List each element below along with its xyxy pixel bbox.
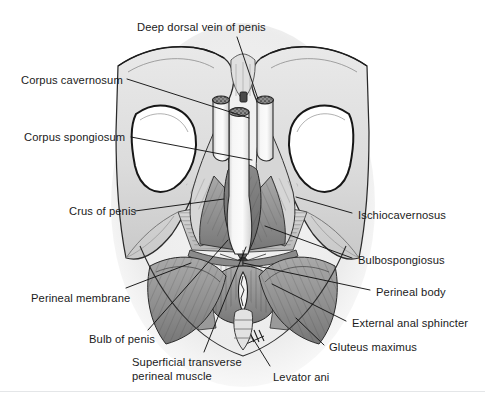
label-external-anal-sphincter-line-1: External anal sphincter (352, 317, 468, 331)
label-external-anal-sphincter: External anal sphincter (352, 317, 468, 331)
label-superficial-transverse-line-1: Superficial transverse (132, 356, 242, 370)
label-gluteus-maximus-line-1: Gluteus maximus (329, 341, 417, 355)
label-perineal-membrane-line-1: Perineal membrane (31, 292, 130, 306)
label-bulbospongiosus: Bulbospongiosus (358, 254, 445, 268)
label-levator-ani-line-1: Levator ani (273, 371, 329, 385)
anatomical-figure: Deep dorsal vein of penisCorpus cavernos… (0, 0, 485, 402)
label-bulbospongiosus-line-1: Bulbospongiosus (358, 254, 445, 268)
label-corpus-spongiosum: Corpus spongiosum (24, 131, 125, 145)
label-crus-of-penis-line-1: Crus of penis (69, 205, 136, 219)
label-levator-ani: Levator ani (273, 371, 329, 385)
label-perineal-membrane: Perineal membrane (31, 292, 130, 306)
label-deep-dorsal-vein: Deep dorsal vein of penis (137, 21, 266, 35)
figure-baseline-rule (0, 391, 485, 392)
label-corpus-cavernosum-line-1: Corpus cavernosum (21, 74, 123, 88)
label-corpus-spongiosum-line-1: Corpus spongiosum (24, 131, 125, 145)
label-ischiocavernosus: Ischiocavernosus (358, 209, 446, 223)
label-perineal-body: Perineal body (376, 286, 446, 300)
label-corpus-cavernosum: Corpus cavernosum (21, 74, 123, 88)
label-superficial-transverse-line-2: perineal muscle (132, 370, 242, 384)
corpus-spongiosum-shaft (227, 108, 252, 254)
label-perineal-body-line-1: Perineal body (376, 286, 446, 300)
label-ischiocavernosus-line-1: Ischiocavernosus (358, 209, 446, 223)
label-bulb-of-penis: Bulb of penis (89, 333, 155, 347)
label-crus-of-penis: Crus of penis (69, 205, 136, 219)
label-bulb-of-penis-line-1: Bulb of penis (89, 333, 155, 347)
deep-dorsal-vein-stump (240, 92, 247, 102)
label-gluteus-maximus: Gluteus maximus (329, 341, 417, 355)
label-deep-dorsal-vein-line-1: Deep dorsal vein of penis (137, 21, 266, 35)
label-superficial-transverse: Superficial transverseperineal muscle (132, 356, 242, 383)
